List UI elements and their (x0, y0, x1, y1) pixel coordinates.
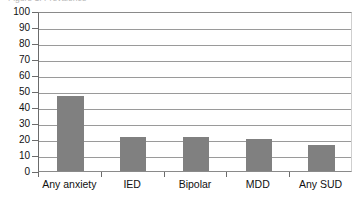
bar (308, 145, 334, 171)
y-axis-tick-label: 60 (0, 71, 30, 81)
gridline (39, 93, 351, 94)
gridline (39, 125, 351, 126)
gridline (39, 61, 351, 62)
x-axis-tick-mark (226, 172, 227, 177)
y-axis-tick-label: 20 (0, 135, 30, 145)
x-axis-tick-mark (101, 172, 102, 177)
bar (246, 139, 272, 171)
gridline (39, 45, 351, 46)
y-axis-tick-label: 100 (0, 7, 30, 17)
y-axis-tick-label: 10 (0, 151, 30, 161)
x-axis-category-label: Any anxiety (38, 178, 101, 190)
bar-chart-figure: Figure 1. Prevalence 0102030405060708090… (0, 0, 361, 201)
y-axis-tick-label: 70 (0, 55, 30, 65)
figure-caption-clipped: Figure 1. Prevalence (8, 0, 258, 3)
gridline (39, 77, 351, 78)
x-axis-category-label: Any SUD (289, 178, 352, 190)
x-axis-origin-tick (38, 172, 39, 177)
x-axis-category-label: Bipolar (164, 178, 227, 190)
y-axis-tick-label: 0 (0, 167, 30, 177)
x-axis-tick-mark (164, 172, 165, 177)
y-axis-tick-label: 80 (0, 39, 30, 49)
bar (183, 137, 209, 171)
y-axis-tick-label: 90 (0, 23, 30, 33)
x-axis-category-label: MDD (226, 178, 289, 190)
gridline (39, 109, 351, 110)
y-axis-tick-label: 50 (0, 87, 30, 97)
x-axis-tick-mark (289, 172, 290, 177)
bar (120, 137, 146, 171)
y-axis-tick-label: 40 (0, 103, 30, 113)
plot-area (38, 12, 352, 172)
x-axis-category-label: IED (101, 178, 164, 190)
gridline (39, 29, 351, 30)
bar (57, 96, 83, 171)
y-axis-tick-label: 30 (0, 119, 30, 129)
